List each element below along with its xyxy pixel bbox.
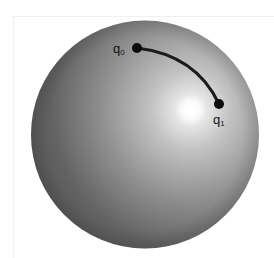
- point-q1-marker: [214, 99, 224, 109]
- sphere-diagram: q0 q1: [0, 0, 274, 258]
- point-q0-marker: [132, 43, 142, 53]
- specular-highlight: [175, 94, 207, 126]
- sphere: [31, 21, 259, 249]
- sphere-geodesic-figure: q0 q1: [0, 0, 274, 258]
